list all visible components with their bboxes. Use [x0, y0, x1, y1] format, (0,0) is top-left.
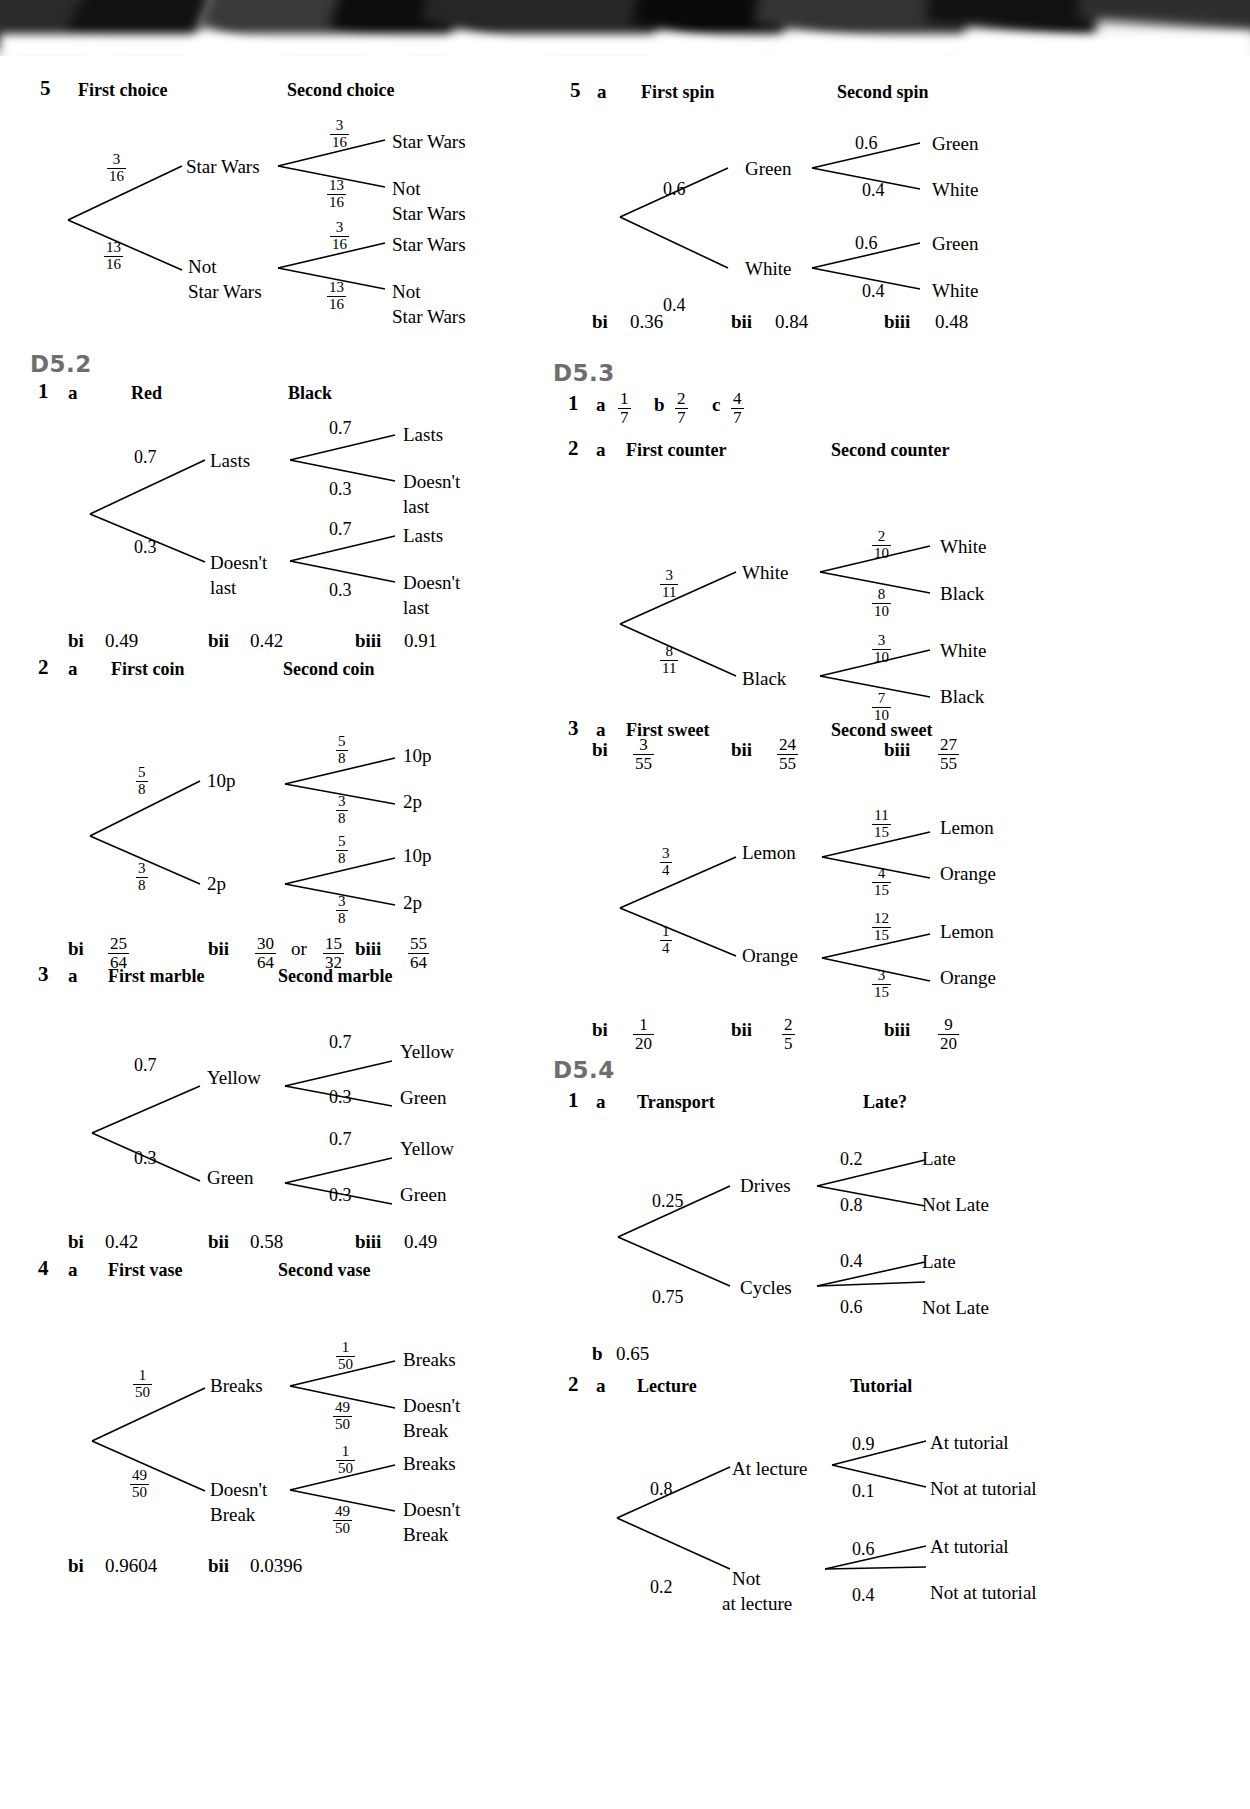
probability-label: 0.9 [852, 1435, 875, 1453]
probability-label: 4950 [333, 1504, 352, 1537]
probability-label: 415 [872, 866, 891, 899]
probability-label: 0.4 [840, 1252, 863, 1270]
answer-value: 0.42 [250, 631, 283, 650]
answer-label: bi [68, 1232, 84, 1251]
probability-label: 316 [107, 152, 126, 185]
tree-leaf: Not at tutorial [930, 1583, 1037, 1602]
probability-label: 810 [872, 587, 891, 620]
probability-label: 14 [660, 924, 672, 957]
probability-label: 150 [133, 1368, 152, 1401]
probability-label: 210 [872, 529, 891, 562]
tree-leaf: Doesn't [403, 472, 460, 491]
probability-label: 0.2 [840, 1150, 863, 1168]
probability-label: 58 [336, 734, 348, 767]
tree-node: at lecture [722, 1594, 792, 1613]
tree-leaf: At tutorial [930, 1433, 1009, 1452]
probability-label: 0.4 [663, 296, 686, 314]
answer-conjunction: or [291, 939, 307, 958]
probability-label: 58 [136, 765, 148, 798]
tree-leaf: Late [922, 1149, 956, 1168]
probability-label: 811 [660, 644, 678, 677]
answer-value: 27 [675, 390, 688, 427]
tree-leaf: White [932, 281, 978, 300]
tree-node: Lasts [210, 451, 250, 470]
probability-label: 0.3 [134, 1149, 157, 1167]
probability-label: 0.4 [862, 282, 885, 300]
answer-value: 0.48 [935, 312, 968, 331]
tree-leaf: Green [932, 134, 978, 153]
tree-leaf: Doesn't [403, 573, 460, 592]
section-heading-d53: D5.3 [553, 362, 615, 385]
answer-value: 17 [618, 390, 631, 427]
probability-label: 1115 [872, 808, 891, 841]
tree-leaf: Break [403, 1421, 448, 1440]
tree-node: Star Wars [186, 157, 260, 176]
probability-label: 0.2 [650, 1578, 673, 1596]
probability-label: 4950 [130, 1468, 149, 1501]
answer-label: bii [208, 939, 229, 958]
tree-leaf: Star Wars [392, 132, 466, 151]
answer-value: 25 [782, 1016, 795, 1053]
probability-label: 0.7 [329, 419, 352, 437]
tree-leaf: Yellow [400, 1139, 454, 1158]
probability-label: 4950 [333, 1400, 352, 1433]
answer-label: bii [208, 631, 229, 650]
tree-node: Break [210, 1505, 255, 1524]
answer-value: 0.49 [404, 1232, 437, 1251]
tree-leaf: Lemon [940, 922, 994, 941]
tree-node: Yellow [207, 1068, 261, 1087]
answer-label: biii [884, 312, 910, 331]
tree-leaf: Not Late [922, 1298, 989, 1317]
tree-leaf: Not [392, 282, 421, 301]
tree-diagram-lecture [540, 1371, 1060, 1671]
section-heading-d54: D5.4 [553, 1059, 615, 1082]
probability-label: 0.7 [134, 448, 157, 466]
answer-value: 0.9604 [105, 1556, 157, 1575]
tree-leaf: Star Wars [392, 204, 466, 223]
tree-node: Breaks [210, 1376, 263, 1395]
tree-leaf: Star Wars [392, 235, 466, 254]
tree-leaf: Black [940, 687, 984, 706]
answer-label: bii [208, 1232, 229, 1251]
tree-node: White [742, 563, 788, 582]
answer-value: 0.65 [616, 1344, 649, 1363]
tree-node: Doesn't [210, 553, 267, 572]
probability-label: 34 [660, 846, 672, 879]
tree-leaf: Yellow [400, 1042, 454, 1061]
question-part: b [654, 395, 665, 414]
answer-label: biii [884, 1020, 910, 1039]
probability-label: 315 [872, 968, 891, 1001]
tree-node: Not [188, 257, 217, 276]
probability-label: 0.8 [840, 1196, 863, 1214]
probability-label: 0.6 [855, 234, 878, 252]
tree-node: Orange [742, 946, 798, 965]
question-number: 1 [568, 393, 579, 414]
probability-label: 0.7 [329, 520, 352, 538]
probability-label: 150 [336, 1340, 355, 1373]
tree-node: last [210, 578, 236, 597]
tree-node: Not [732, 1569, 761, 1588]
probability-label: 0.4 [862, 181, 885, 199]
probability-label: 310 [872, 633, 891, 666]
probability-label: 1316 [327, 178, 346, 211]
tree-leaf: Green [932, 234, 978, 253]
tree-leaf: Star Wars [392, 307, 466, 326]
tree-leaf: Green [400, 1088, 446, 1107]
tree-leaf: 2p [403, 893, 422, 912]
probability-label: 1316 [104, 240, 123, 273]
probability-label: 316 [330, 220, 349, 253]
answer-value: 120 [633, 1016, 654, 1053]
answer-label: bi [592, 1020, 608, 1039]
answer-value: 0.0396 [250, 1556, 302, 1575]
probability-label: 0.6 [663, 180, 686, 198]
answer-label: biii [355, 939, 381, 958]
probability-label: 316 [330, 118, 349, 151]
tree-leaf: Lasts [403, 526, 443, 545]
probability-label: 1316 [327, 280, 346, 313]
tree-leaf: Not Late [922, 1195, 989, 1214]
tree-diagram-transport [540, 1086, 1060, 1376]
tree-leaf: Breaks [403, 1454, 456, 1473]
answer-label: bi [68, 939, 84, 958]
tree-leaf: Lemon [940, 818, 994, 837]
tree-leaf: White [932, 180, 978, 199]
